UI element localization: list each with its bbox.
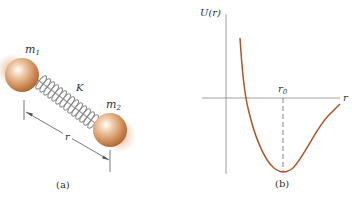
figure: m1 K m2 r (a) U(r) r r0 (b) — [0, 0, 352, 197]
spring-constant-label: K — [75, 82, 84, 93]
mass1-label: m1 — [25, 43, 40, 57]
x-axis-label: r — [343, 92, 349, 103]
caption-a: (a) — [56, 179, 70, 190]
panel-a-diagram: m1 K m2 r (a) — [0, 43, 136, 190]
caption-b: (b) — [275, 178, 289, 189]
spring — [33, 74, 103, 133]
r0-label: r0 — [278, 83, 288, 96]
y-axis-label: U(r) — [200, 7, 221, 18]
potential-curve — [240, 38, 340, 172]
mass2-ball — [93, 113, 127, 147]
mass1-ball — [5, 58, 39, 92]
mass2-label: m2 — [106, 98, 121, 112]
panel-b-chart: U(r) r r0 (b) — [200, 7, 349, 189]
